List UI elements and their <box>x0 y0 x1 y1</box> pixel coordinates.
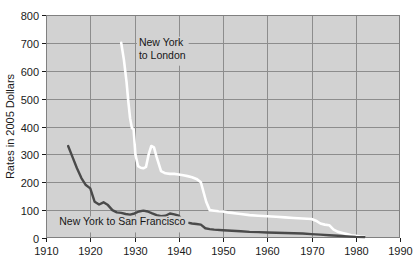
chart-figure: 0100200300400500600700800 19101920193019… <box>0 0 416 265</box>
y-tick-label-0: 0 <box>33 233 39 245</box>
x-tick-label-1940: 1940 <box>167 245 191 257</box>
y-tick-label-300: 300 <box>21 149 39 161</box>
line-chart: 0100200300400500600700800 19101920193019… <box>0 0 416 265</box>
y-axis-ticks <box>42 16 46 239</box>
y-tick-label-800: 800 <box>21 10 39 22</box>
x-axis-tick-labels: 191019201930194019501960197019801990 <box>34 245 412 257</box>
x-tick-label-1920: 1920 <box>78 245 102 257</box>
x-tick-label-1970: 1970 <box>300 245 324 257</box>
x-tick-label-1950: 1950 <box>211 245 235 257</box>
annotation-new-york-to-san-francisco: New York to San Francisco <box>57 215 188 232</box>
y-tick-label-400: 400 <box>21 122 39 134</box>
y-axis-title: Rates in 2005 Dollars <box>4 73 16 179</box>
annotation-new-york-to-london: New York to London <box>137 36 189 66</box>
annotation-london-line2: to London <box>139 49 186 61</box>
x-tick-label-1910: 1910 <box>34 245 58 257</box>
x-tick-label-1990: 1990 <box>388 245 412 257</box>
y-tick-label-100: 100 <box>21 205 39 217</box>
y-tick-label-200: 200 <box>21 177 39 189</box>
annotation-london-line1: New York <box>139 36 184 48</box>
y-tick-label-600: 600 <box>21 66 39 78</box>
y-tick-label-500: 500 <box>21 94 39 106</box>
x-tick-label-1930: 1930 <box>123 245 147 257</box>
x-tick-label-1980: 1980 <box>344 245 368 257</box>
y-tick-label-700: 700 <box>21 38 39 50</box>
y-axis-tick-labels: 0100200300400500600700800 <box>21 10 39 245</box>
annotation-sanfrancisco-line1: New York to San Francisco <box>59 215 185 227</box>
x-axis-ticks <box>47 238 401 242</box>
x-tick-label-1960: 1960 <box>255 245 279 257</box>
